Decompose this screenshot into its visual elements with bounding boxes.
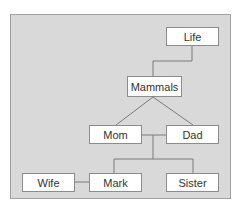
node-label: Life <box>184 31 202 43</box>
node-sister: Sister <box>166 173 219 192</box>
node-life: Life <box>166 27 219 46</box>
node-dad: Dad <box>166 125 219 144</box>
node-wife: Wife <box>22 173 75 192</box>
node-mark: Mark <box>89 173 142 192</box>
edge-mammals-mom <box>116 97 153 125</box>
node-mammals: Mammals <box>127 76 182 97</box>
node-label: Mom <box>103 129 127 141</box>
node-label: Dad <box>182 129 202 141</box>
edge-life-mammals <box>153 45 192 76</box>
node-label: Sister <box>178 177 206 189</box>
node-mom: Mom <box>89 125 142 144</box>
edge-mammals-dad <box>153 97 193 125</box>
node-label: Mark <box>103 177 127 189</box>
node-label: Mammals <box>131 81 179 93</box>
node-label: Wife <box>38 177 60 189</box>
